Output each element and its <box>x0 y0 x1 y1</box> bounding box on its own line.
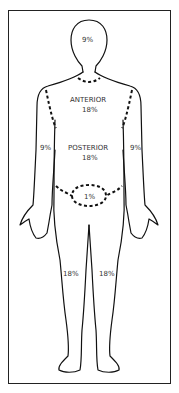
perineum-percent: 1% <box>84 193 95 201</box>
left-shoulder-divider <box>46 90 56 128</box>
neck-divider <box>78 78 100 82</box>
head-percent: 9% <box>82 36 93 44</box>
left-leg-percent: 18% <box>63 270 79 278</box>
right-shoulder-divider <box>122 90 132 128</box>
anterior-percent: 18% <box>82 106 98 114</box>
anterior-label: ANTERIOR <box>70 96 106 104</box>
right-arm-percent: 9% <box>130 144 141 152</box>
head-outline <box>71 20 107 72</box>
left-arm-percent: 9% <box>40 144 51 152</box>
right-leg-percent: 18% <box>99 270 115 278</box>
posterior-percent: 18% <box>82 154 98 162</box>
posterior-label: POSTERIOR <box>68 144 108 152</box>
